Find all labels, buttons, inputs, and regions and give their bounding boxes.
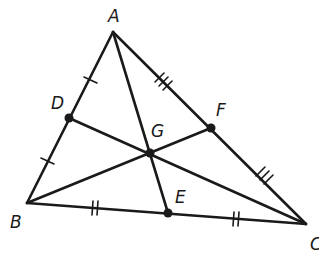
label-f: F <box>216 100 226 120</box>
triangle-medians-diagram: A B C D E F G <box>0 0 319 270</box>
label-e: E <box>175 187 186 207</box>
labels: A B C D E F G <box>10 6 319 254</box>
point-d-dot <box>65 114 74 123</box>
label-d: D <box>51 93 64 113</box>
label-a: A <box>107 6 120 26</box>
points <box>65 114 216 218</box>
triangle-sides <box>27 32 306 224</box>
medians <box>27 32 306 224</box>
label-b: B <box>10 212 22 232</box>
point-e-dot <box>164 209 173 218</box>
point-f-dot <box>207 124 216 133</box>
label-g: G <box>151 121 164 141</box>
label-c: C <box>310 234 319 254</box>
point-g-dot <box>146 149 155 158</box>
